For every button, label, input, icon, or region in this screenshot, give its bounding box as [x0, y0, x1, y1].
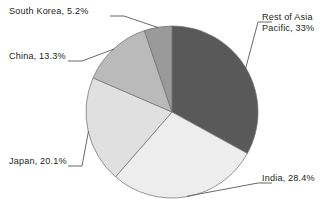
- clipped-caption-area: — —— ———— ———: [0, 218, 331, 223]
- pie-slices-group: [86, 26, 258, 198]
- pie-label-japan: Japan, 20.1%: [9, 156, 67, 167]
- pie-label-rest-of-asia-pacific-line1: Rest of Asia: [262, 12, 313, 22]
- leader-line-japan: [68, 131, 89, 166]
- leader-line-south-korea: [110, 16, 158, 28]
- pie-label-india: India, 28.4%: [262, 173, 315, 184]
- pie-chart-figure: South Korea, 5.2% China, 13.3% Japan, 20…: [0, 0, 331, 223]
- pie-label-china: China, 13.3%: [9, 51, 66, 62]
- pie-label-rest-of-asia-pacific: Rest of AsiaPacific, 33%: [262, 12, 314, 35]
- clipped-caption-text: — —— ———— ———: [0, 218, 331, 223]
- pie-label-rest-of-asia-pacific-line2: Pacific, 33%: [262, 23, 314, 33]
- pie-label-south-korea: South Korea, 5.2%: [9, 6, 88, 17]
